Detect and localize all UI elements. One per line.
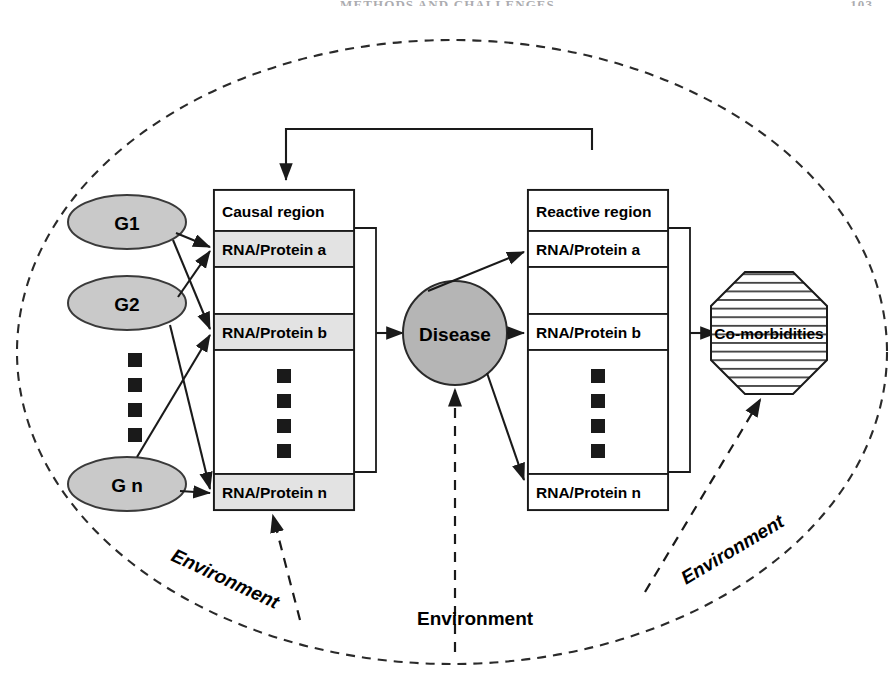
reactive-region-box bbox=[528, 190, 668, 510]
disease-systems-diagram: Causal region RNA/Protein a RNA/Protein … bbox=[0, 0, 895, 678]
reactive-row-a-label: RNA/Protein a bbox=[536, 241, 641, 258]
causal-region-box bbox=[214, 190, 354, 510]
causal-row-b-label: RNA/Protein b bbox=[222, 324, 327, 341]
gene-gn: G n bbox=[68, 457, 186, 511]
arrow-disease-to-reactive-n bbox=[487, 373, 524, 480]
causal-region-title: Causal region bbox=[222, 203, 325, 220]
environment-label-right: Environment bbox=[677, 510, 788, 588]
gene-g2: G2 bbox=[68, 276, 186, 330]
figure-page: METHODS AND CHALLENGES 103 bbox=[0, 0, 895, 678]
causal-bracket bbox=[354, 228, 376, 472]
arrow-g1-to-causal-a bbox=[176, 233, 210, 247]
arrow-gn-to-causal-n bbox=[180, 491, 210, 493]
gene-gn-label: G n bbox=[111, 475, 143, 496]
causal-row-n-label: RNA/Protein n bbox=[222, 484, 327, 501]
environment-label-left: Environment bbox=[168, 545, 283, 613]
arrow-gn-to-causal-b bbox=[137, 335, 210, 457]
causal-row-a-label: RNA/Protein a bbox=[222, 241, 327, 258]
reactive-row-n-label: RNA/Protein n bbox=[536, 484, 641, 501]
reactive-bracket bbox=[668, 228, 690, 472]
reactive-row-b-label: RNA/Protein b bbox=[536, 324, 641, 341]
arrow-g2-to-causal-n bbox=[170, 325, 210, 489]
disease-node: Disease bbox=[403, 281, 507, 385]
gene-g1: G1 bbox=[68, 195, 186, 249]
environment-label-bottom: Environment bbox=[417, 608, 534, 629]
feedback-loop-arrow bbox=[286, 129, 592, 180]
comorbidities-node: Co-morbidities bbox=[711, 272, 827, 394]
gene-g2-label: G2 bbox=[114, 294, 139, 315]
gene-g1-label: G1 bbox=[114, 213, 140, 234]
comorbidities-label: Co-morbidities bbox=[714, 325, 823, 342]
reactive-region-title: Reactive region bbox=[536, 203, 651, 220]
disease-label: Disease bbox=[419, 324, 491, 345]
gene-list-ellipsis bbox=[128, 353, 142, 442]
